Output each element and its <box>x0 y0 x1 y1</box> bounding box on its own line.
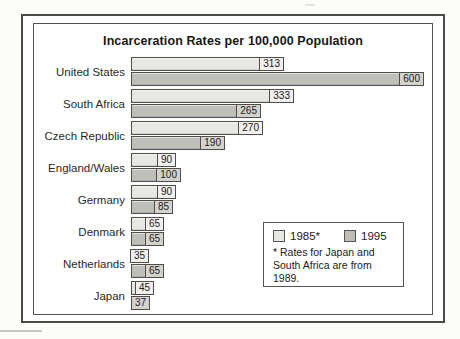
bar-1985: 35 <box>131 249 148 263</box>
value-label: 90 <box>157 153 176 167</box>
bar-1985: 45 <box>131 281 153 295</box>
chart-row: England/Wales90100 <box>34 153 432 182</box>
value-label: 65 <box>145 232 164 246</box>
legend-label-1985: 1985* <box>290 230 320 242</box>
category-label: United States <box>34 66 131 78</box>
scan-artifact <box>305 4 315 6</box>
bar-group: 270190 <box>131 121 432 150</box>
category-label: Denmark <box>34 226 131 238</box>
category-label: Japan <box>34 290 131 302</box>
legend-footnote: * Rates for Japan and South Africa are f… <box>273 246 394 285</box>
value-label: 600 <box>399 72 424 86</box>
legend-box: 1985* 1995 * Rates for Japan and South A… <box>263 222 404 287</box>
value-label: 265 <box>236 104 261 118</box>
category-label: Czech Republic <box>34 130 131 142</box>
bar-1985: 313 <box>131 57 283 71</box>
legend-swatch-1995 <box>344 230 356 242</box>
chart-row: Germany9085 <box>34 185 432 214</box>
bar-1995: 600 <box>131 72 423 86</box>
value-label: 333 <box>269 89 294 103</box>
value-label: 45 <box>135 281 154 295</box>
bar-group: 333265 <box>131 89 432 118</box>
bar-1995: 85 <box>131 200 172 214</box>
chart-row: Czech Republic270190 <box>34 121 432 150</box>
bar-1995: 100 <box>131 168 180 182</box>
chart-inner-frame: Incarceration Rates per 100,000 Populati… <box>33 23 433 315</box>
bar-group: 313600 <box>131 57 432 86</box>
chart-title: Incarceration Rates per 100,000 Populati… <box>34 34 432 48</box>
legend-item-1995: 1995 <box>344 230 387 242</box>
value-label: 100 <box>156 168 181 182</box>
value-label: 90 <box>157 185 176 199</box>
bar-1985: 270 <box>131 121 262 135</box>
chart-row: United States313600 <box>34 57 432 86</box>
legend-row: 1985* 1995 <box>273 230 394 242</box>
bar-1995: 37 <box>131 296 149 310</box>
bar-1985: 90 <box>131 185 175 199</box>
bar-1985: 333 <box>131 89 293 103</box>
value-label: 313 <box>259 57 284 71</box>
value-label: 35 <box>130 249 149 263</box>
category-label: Netherlands <box>34 258 131 270</box>
legend-label-1995: 1995 <box>361 230 387 242</box>
bar-1995: 65 <box>131 232 163 246</box>
bar-group: 9085 <box>131 185 432 214</box>
value-label: 85 <box>154 200 173 214</box>
bar-1985: 65 <box>131 217 163 231</box>
category-label: England/Wales <box>34 162 131 174</box>
value-label: 190 <box>200 136 225 150</box>
bar-1985: 90 <box>131 153 175 167</box>
scan-artifact <box>0 330 42 332</box>
value-label: 65 <box>145 264 164 278</box>
value-label: 37 <box>131 296 150 310</box>
value-label: 270 <box>238 121 263 135</box>
category-label: South Africa <box>34 98 131 110</box>
bar-group: 90100 <box>131 153 432 182</box>
scanned-chart-page: Incarceration Rates per 100,000 Populati… <box>0 0 460 339</box>
value-label: 65 <box>145 217 164 231</box>
legend-swatch-1985 <box>273 230 285 242</box>
bar-1995: 190 <box>131 136 224 150</box>
bar-1995: 65 <box>131 264 163 278</box>
category-label: Germany <box>34 194 131 206</box>
legend-item-1985: 1985* <box>273 230 320 242</box>
bar-1995: 265 <box>131 104 260 118</box>
chart-row: South Africa333265 <box>34 89 432 118</box>
chart-outer-frame: Incarceration Rates per 100,000 Populati… <box>21 14 445 323</box>
